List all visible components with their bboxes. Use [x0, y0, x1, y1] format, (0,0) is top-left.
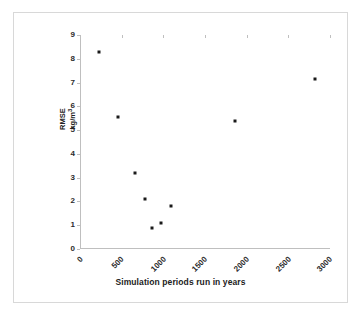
data-point	[313, 77, 316, 80]
data-point	[143, 198, 146, 201]
x-tick-mark	[288, 35, 289, 38]
y-tick-label: 8	[71, 55, 75, 63]
y-axis-title-line2: kg/m	[69, 112, 78, 130]
data-point	[160, 221, 163, 224]
y-tick-label: 1	[71, 221, 75, 229]
x-tick-mark	[205, 35, 206, 38]
y-tick-label: 4	[71, 150, 75, 158]
y-axis-title: RMSE kg/m3	[58, 89, 78, 149]
data-point	[233, 119, 236, 122]
x-tick-label: 1000	[149, 255, 167, 273]
x-tick-label: 2500	[274, 255, 292, 273]
x-tick-label: 1500	[191, 255, 209, 273]
data-point	[133, 171, 136, 174]
chart-figure: 0123456789 050010001500200025003000 RMSE…	[13, 12, 348, 303]
x-tick-mark	[330, 35, 331, 38]
data-point	[117, 116, 120, 119]
y-tick-mark	[77, 201, 80, 202]
y-tick-mark	[77, 154, 80, 155]
x-axis-title: Simulation periods run in years	[14, 277, 347, 287]
y-tick-mark	[77, 225, 80, 226]
x-tick-label: 0	[75, 255, 84, 264]
y-tick-mark	[77, 59, 80, 60]
x-tick-label: 3000	[316, 255, 334, 273]
y-tick-label: 7	[71, 79, 75, 87]
x-tick-mark	[163, 35, 164, 38]
y-axis-title-exponent: 3	[67, 109, 73, 112]
y-tick-label: 3	[71, 174, 75, 182]
data-point	[170, 205, 173, 208]
y-axis-line	[80, 35, 81, 249]
y-tick-mark	[77, 178, 80, 179]
x-tick-label: 2000	[233, 255, 251, 273]
y-axis-title-line1: RMSE	[58, 108, 67, 130]
y-tick-mark	[77, 83, 80, 84]
x-tick-mark	[80, 35, 81, 38]
data-point	[97, 50, 100, 53]
y-tick-label: 9	[71, 31, 75, 39]
y-tick-mark	[77, 249, 80, 250]
scatter-plot-area: 0123456789 050010001500200025003000	[80, 35, 330, 249]
x-tick-label: 500	[111, 255, 126, 270]
x-tick-mark	[247, 35, 248, 38]
y-tick-label: 2	[71, 197, 75, 205]
data-point	[151, 226, 154, 229]
y-tick-label: 0	[71, 245, 75, 253]
x-axis-line	[80, 248, 330, 249]
x-tick-mark	[122, 35, 123, 38]
